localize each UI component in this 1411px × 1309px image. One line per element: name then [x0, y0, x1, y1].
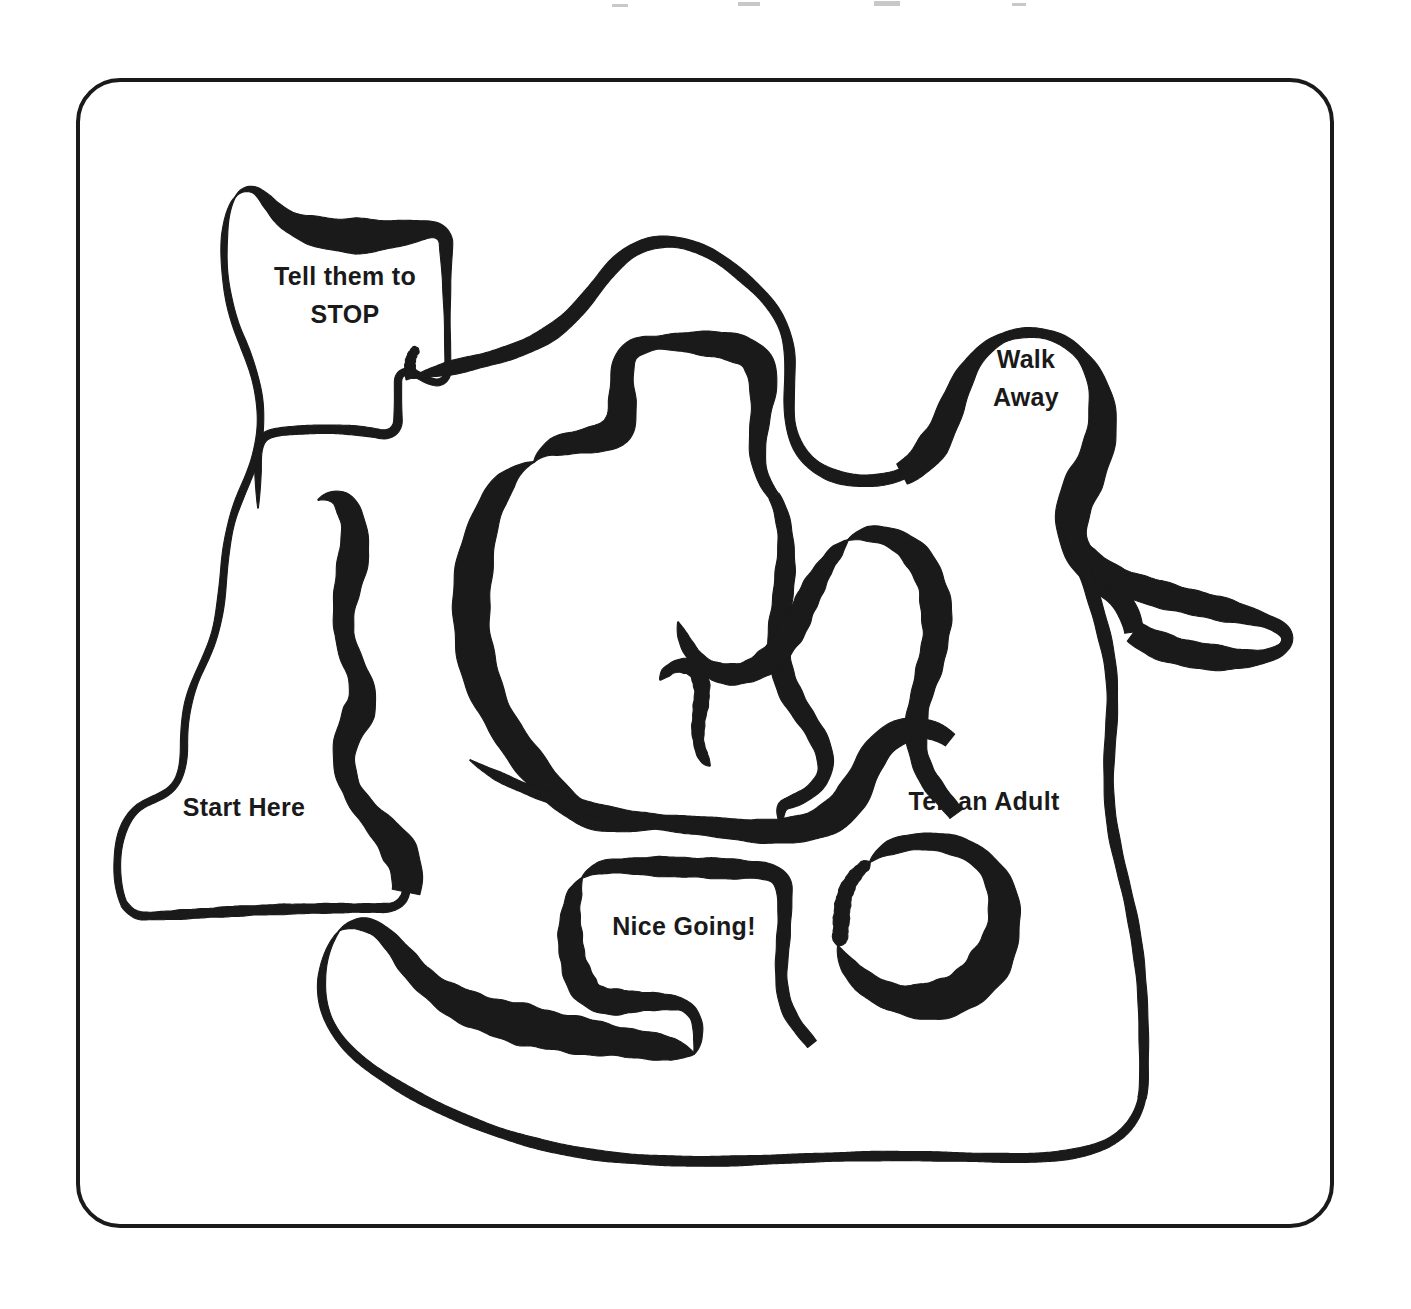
- maze-label-line: Start Here: [183, 793, 306, 821]
- maze-label-nice-going: Nice Going!: [612, 912, 756, 940]
- maze-label-line: STOP: [311, 300, 380, 328]
- maze-label-line: Walk: [997, 345, 1056, 373]
- maze-label-line: Tell them to: [274, 262, 416, 290]
- maze-drawing: Tell them toSTOPWalkAwayStart HereTell a…: [0, 0, 1411, 1309]
- maze-label-line: Tell an Adult: [908, 787, 1059, 815]
- scan-artifact: [738, 2, 760, 6]
- maze-label-tell-an-adult: Tell an Adult: [908, 787, 1059, 815]
- scan-artifact: [874, 1, 900, 6]
- maze-label-start-here: Start Here: [183, 793, 306, 821]
- maze-label-line: Nice Going!: [612, 912, 756, 940]
- scan-artifact: [612, 4, 628, 7]
- maze-worksheet-page: Tell them toSTOPWalkAwayStart HereTell a…: [0, 0, 1411, 1309]
- scan-artifact: [1012, 3, 1026, 6]
- maze-label-line: Away: [993, 383, 1059, 411]
